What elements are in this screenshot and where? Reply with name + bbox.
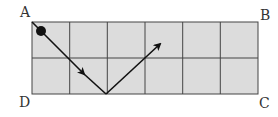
ball	[36, 26, 46, 36]
billiard-diagram: A B C D	[0, 0, 278, 117]
corner-label-c: C	[259, 95, 270, 111]
corner-label-a: A	[19, 4, 31, 20]
corner-label-b: B	[260, 7, 270, 23]
corner-label-d: D	[19, 94, 30, 110]
